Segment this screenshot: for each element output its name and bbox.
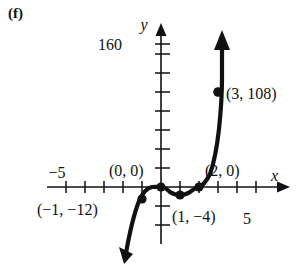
- label-point-neg1-neg12: (−1, −12): [37, 201, 98, 219]
- y-axis: [156, 23, 167, 244]
- y-axis-ticks: [155, 44, 170, 225]
- x-axis-arrowhead: [277, 182, 290, 193]
- y-tick-label-160: 160: [98, 36, 122, 53]
- y-axis-label: y: [138, 16, 148, 34]
- graph-canvas: y x 160 −5 5 (0, 0) (−1, −12) (1, −4) (2…: [0, 0, 301, 269]
- y-axis-arrowhead: [156, 23, 167, 36]
- polynomial-curve: [119, 30, 230, 264]
- x-tick-label-neg5: −5: [48, 164, 65, 181]
- x-axis-label: x: [270, 167, 278, 184]
- figure-root: (f): [0, 0, 301, 269]
- point-2-0: [194, 182, 203, 191]
- point-neg1-neg12: [137, 194, 146, 203]
- point-3-108: [213, 87, 223, 97]
- label-point-3-108: (3, 108): [226, 85, 277, 103]
- label-point-2-0: (2, 0): [205, 162, 240, 180]
- label-point-0-0: (0, 0): [109, 162, 144, 180]
- curve-end-arrowhead: [214, 30, 230, 50]
- x-tick-label-5: 5: [243, 210, 251, 227]
- label-point-1-neg4: (1, −4): [172, 208, 216, 226]
- point-1-neg4: [175, 190, 184, 199]
- point-0-0: [156, 182, 165, 191]
